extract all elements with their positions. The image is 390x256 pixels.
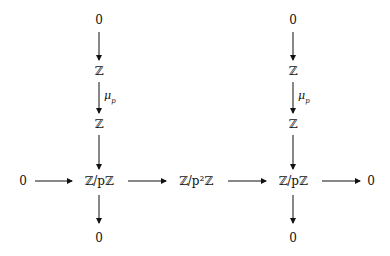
node-left-Z-2: ℤ <box>95 118 104 130</box>
node-right-top-zero: 0 <box>289 14 297 26</box>
arrows-layer <box>0 0 390 256</box>
mu-subscript: p <box>305 97 309 105</box>
node-middle-Zp2Z: ℤ/p²ℤ <box>179 175 213 187</box>
mu-subscript: p <box>111 97 115 105</box>
label-right-mu-p: μp <box>298 89 310 104</box>
node-right-bottom-zero: 0 <box>289 232 297 244</box>
node-left-top-zero: 0 <box>95 14 103 26</box>
node-left-bottom-zero: 0 <box>95 232 103 244</box>
node-right-Z-2: ℤ <box>289 118 298 130</box>
node-row-right-zero: 0 <box>367 175 375 187</box>
node-left-Z-1: ℤ <box>95 65 104 77</box>
node-row-left-zero: 0 <box>19 175 27 187</box>
node-right-ZpZ: ℤ/pℤ <box>278 175 307 187</box>
node-left-ZpZ: ℤ/pℤ <box>84 175 113 187</box>
label-left-mu-p: μp <box>104 89 116 104</box>
node-right-Z-1: ℤ <box>289 65 298 77</box>
